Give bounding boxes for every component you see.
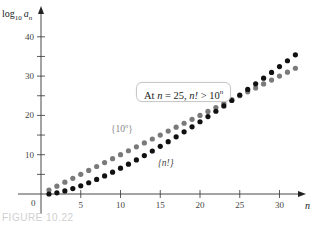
data-point xyxy=(293,52,298,57)
data-point xyxy=(221,103,226,108)
callout-text-prefix: At xyxy=(144,90,157,101)
data-point xyxy=(277,64,282,69)
data-point xyxy=(110,156,115,161)
x-tick-label: 20 xyxy=(196,200,206,210)
data-point xyxy=(166,139,171,144)
y-axis-title: log10an xyxy=(2,8,33,22)
x-tick-label: 25 xyxy=(235,200,245,210)
data-point xyxy=(269,77,274,82)
callout-text-gt: > 10 xyxy=(198,90,220,101)
y-tick-label: 10 xyxy=(25,150,35,160)
data-point xyxy=(126,162,131,167)
data-point xyxy=(245,87,250,92)
callout-text-mid: = 25, xyxy=(162,90,189,101)
data-point xyxy=(54,190,59,195)
data-point xyxy=(213,109,218,114)
data-point xyxy=(86,168,91,173)
data-point xyxy=(261,76,266,81)
data-point xyxy=(46,191,51,196)
data-point xyxy=(110,170,115,175)
data-point xyxy=(174,125,179,130)
data-point xyxy=(189,117,194,122)
data-point xyxy=(277,74,282,79)
data-point xyxy=(118,166,123,171)
data-point xyxy=(253,81,258,86)
data-point xyxy=(237,92,242,97)
data-point xyxy=(70,176,75,181)
data-point xyxy=(269,70,274,75)
data-point xyxy=(285,58,290,63)
y-axis: 10203040 xyxy=(25,6,45,214)
x-axis: 51015202530 xyxy=(18,190,306,210)
data-point xyxy=(174,134,179,139)
data-point xyxy=(102,160,107,165)
data-point xyxy=(78,183,83,188)
y-tick-label: 40 xyxy=(25,32,35,42)
data-point xyxy=(142,153,147,158)
data-point xyxy=(78,172,83,177)
data-point xyxy=(158,132,163,137)
data-point xyxy=(102,173,107,178)
data-point xyxy=(134,157,139,162)
data-point xyxy=(189,124,194,129)
x-tick-label: 5 xyxy=(79,200,84,210)
data-point xyxy=(205,109,210,114)
callout-exponent: n xyxy=(220,88,224,96)
data-point xyxy=(142,140,147,145)
y-tick-label: 30 xyxy=(25,71,35,81)
data-point xyxy=(158,144,163,149)
data-point xyxy=(62,180,67,185)
data-point xyxy=(118,152,123,157)
data-point xyxy=(150,148,155,153)
origin-label: 0 xyxy=(31,198,36,208)
series-label-nfact: {n!} xyxy=(158,158,174,168)
x-tick-label: 10 xyxy=(116,200,126,210)
data-point xyxy=(126,148,131,153)
data-point xyxy=(94,177,99,182)
series-label-10n: {10n} xyxy=(111,122,133,134)
data-point xyxy=(197,113,202,118)
data-point xyxy=(134,144,139,149)
x-axis-title: n xyxy=(305,200,310,211)
data-point xyxy=(285,70,290,75)
callout-var-nfact: n! xyxy=(189,90,198,101)
data-point xyxy=(54,184,59,189)
data-point xyxy=(293,66,298,71)
y-axis-arrow-icon xyxy=(38,6,44,14)
y-tick-label: 20 xyxy=(25,110,35,120)
data-point xyxy=(205,114,210,119)
x-tick-label: 30 xyxy=(275,200,285,210)
data-point xyxy=(182,129,187,134)
x-axis-arrow-icon xyxy=(298,191,306,197)
data-point xyxy=(70,186,75,191)
data-point xyxy=(86,180,91,185)
data-point xyxy=(94,164,99,169)
data-point xyxy=(62,188,67,193)
series-n-factorial xyxy=(46,52,298,196)
chart-canvas: 51015202530 10203040 log10an n 0 {10n} {… xyxy=(0,0,322,225)
data-point xyxy=(150,136,155,141)
x-tick-label: 15 xyxy=(156,200,166,210)
data-point xyxy=(261,81,266,86)
data-point xyxy=(182,121,187,126)
data-point xyxy=(197,119,202,124)
data-point xyxy=(166,129,171,134)
figure-caption: FIGURE 10.22 xyxy=(2,212,74,223)
annotation-callout: At n = 25, n! > 10n xyxy=(136,82,231,102)
